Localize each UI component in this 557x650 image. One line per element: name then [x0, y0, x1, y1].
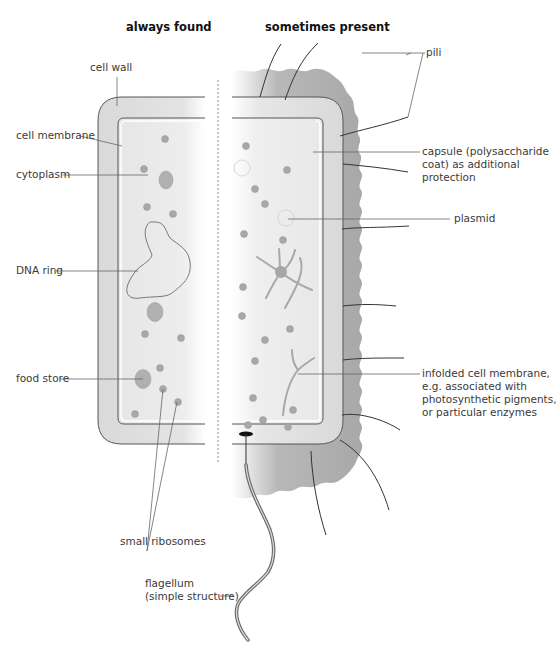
label-pili: pili	[426, 46, 441, 59]
label-plasmid: plasmid	[454, 212, 495, 225]
label-capsule-line2: coat) as additional	[422, 158, 549, 171]
label-food-store: food store	[16, 372, 69, 385]
food-store-granule-1	[147, 303, 163, 322]
label-capsule-line1: capsule (polysaccharide	[422, 145, 549, 158]
label-cell-membrane: cell membrane	[16, 129, 95, 142]
label-cytoplasm: cytoplasm	[16, 168, 70, 181]
label-cell-wall: cell wall	[90, 61, 132, 74]
label-flagellum: flagellum (simple structure)	[145, 577, 239, 603]
cytoplasm-granule	[159, 171, 173, 189]
label-flagellum-line2: (simple structure)	[145, 590, 239, 603]
label-dna-ring: DNA ring	[16, 264, 63, 277]
label-infolded-line3: photosynthetic pigments,	[422, 393, 557, 406]
label-infolded-membrane: infolded cell membrane, e.g. associated …	[422, 367, 557, 419]
right-cell	[232, 43, 409, 640]
label-small-ribosomes: small ribosomes	[120, 535, 206, 548]
left-cell	[98, 97, 205, 444]
label-infolded-line1: infolded cell membrane,	[422, 367, 557, 380]
heading-sometimes-present: sometimes present	[265, 20, 390, 34]
label-capsule-line3: protection	[422, 171, 549, 184]
label-flagellum-line1: flagellum	[145, 577, 239, 590]
label-capsule: capsule (polysaccharide coat) as additio…	[422, 145, 549, 184]
label-infolded-line2: e.g. associated with	[422, 380, 557, 393]
heading-always-found: always found	[126, 20, 212, 34]
label-infolded-line4: or particular enzymes	[422, 406, 557, 419]
